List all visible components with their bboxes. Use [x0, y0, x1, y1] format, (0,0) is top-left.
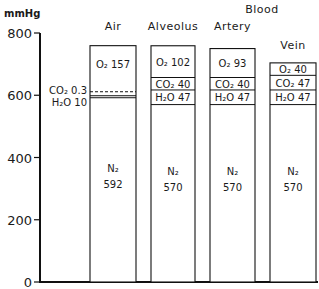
segment-label-n2-name: N₂ — [227, 166, 239, 177]
bars: O₂ 157CO₂ 0.3H₂O 10N₂592H₂O 47CO₂ 40O₂ 1… — [49, 46, 316, 282]
annotation-h2o: H₂O 10 — [52, 97, 87, 108]
y-tick-label: 400 — [7, 151, 32, 166]
y-tick-label: 800 — [7, 26, 32, 41]
y-tick-label: 200 — [7, 213, 32, 228]
segment-label-n2-name: N₂ — [107, 163, 119, 174]
category-label-alveolus: Alveolus — [148, 20, 198, 33]
segment-label-h2o: H₂O 47 — [215, 92, 250, 103]
bar-alveolus: H₂O 47CO₂ 40O₂ 102N₂570 — [151, 46, 195, 282]
category-label-vein: Vein — [280, 39, 305, 52]
segment-label-o2: O₂ 93 — [219, 58, 247, 69]
group-label-blood: Blood — [245, 3, 279, 16]
segment-label-n2-value: 570 — [163, 182, 182, 193]
segment-label-co2: CO₂ 47 — [276, 78, 311, 89]
segment-label-h2o: H₂O 47 — [275, 92, 310, 103]
segment-label-n2-value: 570 — [283, 182, 302, 193]
y-tick-label: 0 — [24, 275, 32, 289]
category-label-air: Air — [105, 20, 122, 33]
bar-air: O₂ 157CO₂ 0.3H₂O 10N₂592 — [49, 46, 136, 282]
segment-label-co2: CO₂ 40 — [215, 79, 250, 90]
segment-label-h2o: H₂O 47 — [155, 92, 190, 103]
y-tick-label: 600 — [7, 88, 32, 103]
category-label-artery: Artery — [214, 20, 251, 33]
partial-pressure-chart: 0200400600800mmHg O₂ 157CO₂ 0.3H₂O 10N₂5… — [0, 0, 319, 289]
segment-label-co2: CO₂ 40 — [156, 79, 191, 90]
y-axis-unit-label: mmHg — [4, 8, 40, 19]
annotation-co2: CO₂ 0.3 — [49, 85, 87, 96]
segment-label-n2-name: N₂ — [167, 166, 179, 177]
segment-label-n2-value: 570 — [223, 182, 242, 193]
bar-vein: H₂O 47CO₂ 47O₂ 40N₂570 — [270, 63, 316, 282]
segment-label-n2-name: N₂ — [287, 166, 299, 177]
segment-label-o2: O₂ 102 — [156, 57, 190, 68]
segment-label-o2: O₂ 40 — [279, 64, 307, 75]
labels: AirAlveolusArteryVeinBlood — [105, 3, 306, 52]
segment-label-o2: O₂ 157 — [96, 59, 130, 70]
segment-label-n2-value: 592 — [103, 179, 122, 190]
bar-artery: H₂O 47CO₂ 40O₂ 93N₂570 — [210, 49, 255, 282]
